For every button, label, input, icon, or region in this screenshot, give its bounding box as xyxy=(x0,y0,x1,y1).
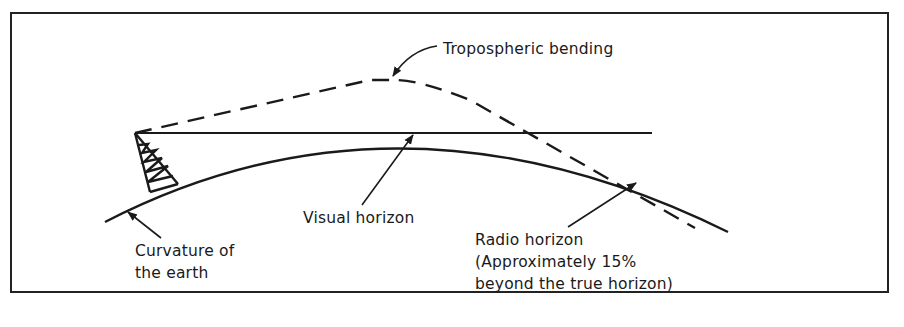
tropospheric-arrow xyxy=(393,46,437,76)
label-radio-horizon-line2: (Approximately 15% xyxy=(475,251,637,273)
label-curvature-line1: Curvature of xyxy=(135,240,234,262)
radio-horizon-diagram: Tropospheric bending Visual horizon Curv… xyxy=(0,0,904,327)
radio-horizon-arrow xyxy=(568,183,636,227)
visual-horizon-arrow xyxy=(362,135,413,205)
antenna-tower-icon xyxy=(135,133,178,192)
label-radio-horizon-line3: beyond the true horizon) xyxy=(475,273,673,295)
label-radio-horizon-line1: Radio horizon xyxy=(475,229,584,251)
earth-curve xyxy=(105,148,728,232)
label-curvature-line2: the earth xyxy=(135,262,208,284)
curvature-arrow xyxy=(128,212,161,238)
label-visual-horizon: Visual horizon xyxy=(303,207,414,229)
label-tropospheric-bending: Tropospheric bending xyxy=(443,38,613,60)
radio-path-dashed xyxy=(135,80,695,228)
